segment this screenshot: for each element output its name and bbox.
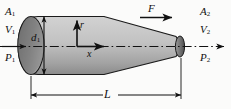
label-radial-axis: r — [80, 20, 84, 30]
nose-cap — [18, 17, 44, 75]
label-diameter: d1 — [31, 32, 40, 44]
label-force: F — [148, 3, 155, 14]
label-inlet-velocity: V1 — [5, 24, 15, 36]
label-outlet-pressure: P2 — [200, 52, 210, 64]
label-outlet-area: A2 — [200, 6, 210, 18]
label-length: L — [104, 88, 111, 100]
label-inlet-pressure: P1 — [5, 52, 15, 64]
label-inlet-area: A1 — [5, 6, 15, 18]
fluid-body-diagram: A1 V1 P1 A2 V2 P2 F d1 r x L — [0, 0, 231, 109]
diagram-canvas — [0, 0, 231, 109]
label-outlet-velocity: V2 — [200, 24, 210, 36]
label-longitudinal-axis: x — [87, 49, 91, 59]
